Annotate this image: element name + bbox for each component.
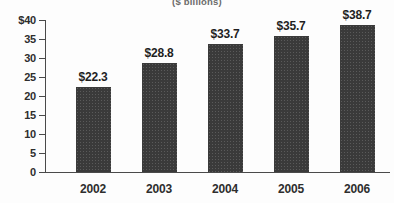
y-axis-tick-label: 30 [0, 52, 36, 64]
y-axis-tick-label: 5 [0, 147, 36, 159]
bar-value-label: $22.3 [63, 70, 123, 84]
chart-title: ($ billions) [0, 0, 394, 7]
x-axis-category-label: 2005 [261, 182, 321, 196]
x-axis-category-label: 2006 [327, 182, 387, 196]
y-axis-tick-label: 25 [0, 71, 36, 83]
bar[interactable] [208, 44, 243, 172]
bars-layer [45, 20, 390, 172]
x-axis-category-label: 2002 [63, 182, 123, 196]
bar[interactable] [340, 25, 375, 172]
y-axis-tick-label: 10 [0, 128, 36, 140]
y-axis-tick-label: 35 [0, 33, 36, 45]
bar-chart: ($ billions) $4035302520151050 $22.3$28.… [0, 0, 394, 203]
y-axis-tick-label: $40 [0, 14, 36, 26]
x-axis-category-label: 2004 [195, 182, 255, 196]
bar[interactable] [274, 36, 309, 172]
bar[interactable] [142, 63, 177, 172]
y-axis-tick-label: 15 [0, 109, 36, 121]
bar[interactable] [76, 87, 111, 172]
bar-value-label: $35.7 [261, 19, 321, 33]
y-axis-tick-label: 20 [0, 90, 36, 102]
bar-value-label: $38.7 [327, 8, 387, 22]
bar-value-label: $28.8 [129, 46, 189, 60]
bar-value-label: $33.7 [195, 27, 255, 41]
y-axis-tick [39, 172, 45, 173]
y-axis-tick-label: 0 [0, 166, 36, 178]
x-axis-line [45, 172, 390, 173]
x-axis-category-label: 2003 [129, 182, 189, 196]
